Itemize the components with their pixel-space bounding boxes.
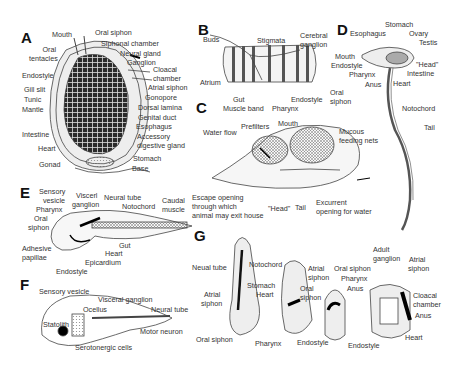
label-c-head: "Head" — [268, 205, 290, 213]
label-b-cerebral-1: Cerebral — [300, 32, 328, 40]
label-g-adult-1: Adult — [373, 246, 389, 254]
label-d-ovary: Ovary — [409, 30, 428, 38]
label-g-endostyle-2: Endostyle — [348, 342, 380, 350]
label-c-excurrent-2: opening for water — [316, 208, 372, 216]
label-g-anus: Anus — [347, 285, 363, 293]
label-b-gut: Gut — [233, 96, 245, 104]
label-c-mucous-1: Mucous — [339, 128, 364, 136]
label-g-atrial-2: siphon — [201, 300, 222, 308]
label-f-neural-tube: Neural tube — [151, 306, 188, 314]
label-g-adult-2: ganglion — [373, 255, 400, 263]
label-c-water-flow: Water flow — [203, 129, 237, 137]
label-b-stigmata: Stigmata — [257, 37, 285, 45]
label-e-endostyle: Endostyle — [56, 268, 88, 276]
panel-letter-c: C — [196, 100, 207, 115]
label-a-siphonal-chamber: Siphonal chamber — [101, 40, 159, 48]
label-d-endostyle: Endostyle — [331, 62, 363, 70]
label-d-anus: Anus — [365, 81, 381, 89]
label-c-mouth: Mouth — [278, 120, 298, 128]
label-e-caudal-2: muscle — [162, 206, 185, 214]
label-d-pharynx: Pharynx — [349, 71, 375, 79]
label-a-esophagus: Esophagus — [136, 123, 172, 131]
label-a-heart: Heart — [38, 145, 56, 153]
label-e-sensory-1: Sensory — [39, 188, 65, 196]
label-a-atrial-siphon: Atrial siphon — [148, 84, 188, 92]
label-g-endostyle: Endostyle — [297, 339, 329, 347]
label-b-cerebral-2: ganglion — [300, 41, 327, 49]
label-a-base: Base — [132, 165, 148, 173]
label-e-epicardium: Epicardium — [85, 259, 121, 267]
label-g-oral2-2: siphon — [300, 294, 321, 302]
panel-letter-a: A — [21, 30, 32, 45]
label-a-gill-slit: Gill slit — [24, 86, 45, 94]
label-d-tail: Tail — [424, 124, 435, 132]
label-a-genital-duct: Genital duct — [138, 114, 176, 122]
label-c-excurrent-1: Excurrent — [316, 199, 347, 207]
label-g-heart-2: Heart — [405, 334, 423, 342]
label-c-mucous-2: feeding nets — [339, 137, 378, 145]
label-e-caudal-1: Caudal — [162, 197, 185, 205]
label-g-atrial3-2: siphon — [408, 265, 429, 273]
label-f-motor-neuron: Motor neuron — [140, 328, 183, 336]
label-c-escape-1: Escape opening — [192, 194, 244, 202]
label-d-testis: Testis — [419, 39, 437, 47]
label-c-escape-3: animal may exit house — [192, 212, 264, 220]
label-g-notochord: Notochord — [249, 261, 282, 269]
label-e-visceral-2: ganglion — [72, 201, 99, 209]
label-a-ganglion: Ganglion — [127, 59, 156, 67]
label-b-oral-1: Oral — [330, 89, 344, 97]
label-g-anus-2: Anus — [415, 312, 431, 320]
label-b-atrium: Atrium — [200, 79, 221, 87]
label-a-stomach: Stomach — [133, 155, 161, 163]
panel-letter-e: E — [20, 185, 30, 200]
label-d-intestine: Intestine — [407, 70, 434, 78]
label-a-oral-tentacles-1: Oral — [30, 46, 56, 54]
label-a-intestine: Intestine — [22, 131, 49, 139]
label-g-oral-siphon: Oral siphon — [196, 336, 233, 344]
label-f-visceral-ganglion: Visceral ganglion — [98, 296, 153, 304]
label-f-sensory-vesicle: Sensory vesicle — [39, 288, 89, 296]
label-e-oral-1: Oral — [34, 215, 48, 223]
label-d-heart: Heart — [393, 80, 411, 88]
label-c-escape-2: through which — [192, 203, 237, 211]
label-a-mantle: Mantle — [22, 106, 44, 114]
label-f-serotonergic: Serotonergic cells — [75, 344, 132, 352]
label-b-buds: Buds — [203, 36, 219, 44]
label-c-prefilters: Prefilters — [241, 123, 269, 131]
label-d-stomach: Stomach — [385, 21, 413, 29]
label-a-gonopore: Gonopore — [145, 94, 177, 102]
label-e-sensory-2: vesicle — [43, 197, 65, 205]
label-e-neural-tube: Neural tube — [104, 194, 141, 202]
label-a-mouth: Mouth — [52, 31, 72, 39]
label-g-atrial-1: Atrial — [204, 291, 220, 299]
label-g-stomach: Stomach — [247, 282, 275, 290]
label-d-esophagus: Esophagus — [350, 30, 386, 38]
label-e-notochord: Notochord — [122, 203, 155, 211]
label-b-muscle-band: Muscle band — [223, 105, 264, 113]
label-a-neural-gland: Neural gland — [120, 50, 161, 58]
label-a-cloacal-1: Cloacal — [153, 66, 177, 74]
label-f-statolith: Statolith — [43, 321, 69, 329]
label-g-pharynx-2: Pharynx — [341, 275, 367, 283]
label-e-heart: Heart — [105, 250, 123, 258]
label-b-endostyle: Endostyle — [291, 96, 323, 104]
label-a-accessory-1: Accessory — [137, 133, 170, 141]
panel-letter-f: F — [20, 277, 29, 292]
label-g-atrial3-1: Atrial — [409, 256, 425, 264]
label-a-accessory-2: digestive gland — [137, 142, 185, 150]
label-d-mouth: Mouth — [335, 53, 355, 61]
label-e-adhesive-2: papillae — [22, 254, 47, 262]
label-f-ocellus: Ocellus — [83, 306, 107, 314]
label-g-atrial2-2: siphon — [308, 274, 329, 282]
label-d-head: "Head" — [416, 61, 438, 69]
anatomy-artwork — [0, 0, 456, 368]
label-g-pharynx: Pharynx — [255, 340, 281, 348]
label-g-heart: Heart — [256, 291, 274, 299]
label-a-endostyle: Endostyle — [22, 72, 54, 80]
label-g-neual-tube: Neual tube — [192, 264, 227, 272]
label-e-oral-2: siphon — [28, 224, 49, 232]
label-a-cloacal-2: chamber — [153, 75, 181, 83]
label-b-oral-2: siphon — [330, 98, 351, 106]
panel-letter-d: D — [337, 22, 348, 37]
label-g-oral-siphon-3: Oral siphon — [334, 265, 371, 273]
